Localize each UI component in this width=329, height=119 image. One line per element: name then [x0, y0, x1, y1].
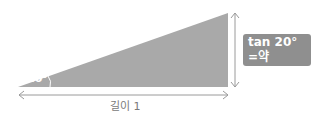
tan-result-box: tan 20° =약 0.364: [243, 34, 311, 66]
height-arrow: [231, 13, 239, 87]
tan-result-line1: tan 20°: [248, 35, 306, 50]
tan-result-line2: =약 0.364: [248, 50, 306, 80]
right-triangle: [18, 13, 228, 87]
length-label: 길이 1: [110, 97, 141, 113]
angle-label: 20°: [27, 72, 48, 85]
